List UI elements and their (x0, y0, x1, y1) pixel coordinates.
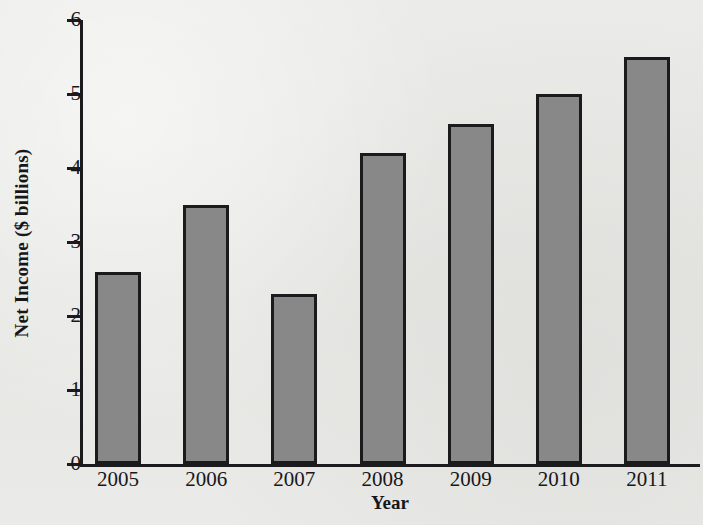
y-axis-tick-label: 0 (39, 453, 81, 474)
bar-2007 (271, 294, 317, 464)
y-axis-tick-label: 4 (39, 157, 81, 178)
x-axis-tick-label-2008: 2008 (343, 468, 423, 491)
bar-2010 (536, 94, 582, 464)
x-axis-tick-label-2009: 2009 (431, 468, 511, 491)
bar-2008 (360, 153, 406, 464)
bar-2006 (183, 205, 229, 464)
x-axis-tick-label-2007: 2007 (254, 468, 334, 491)
y-axis-ticks: 0123456 (0, 0, 81, 525)
x-axis-tick-label-2005: 2005 (78, 468, 158, 491)
x-axis-tick-label-2010: 2010 (519, 468, 599, 491)
y-axis-tick-label: 1 (39, 379, 81, 400)
x-axis-tick-label-2006: 2006 (166, 468, 246, 491)
y-axis-tick-label: 6 (39, 9, 81, 30)
bar-chart-figure: Net Income ($ billions) 0123456 20052006… (0, 0, 703, 525)
x-axis-title: Year (80, 492, 700, 514)
y-axis-tick-label: 2 (39, 305, 81, 326)
plot-area (83, 20, 700, 464)
bar-2011 (624, 57, 670, 464)
y-axis-tick-label: 3 (39, 231, 81, 252)
bar-2009 (448, 124, 494, 464)
y-axis-tick-label: 5 (39, 83, 81, 104)
bar-2005 (95, 272, 141, 464)
x-axis-tick-label-2011: 2011 (607, 468, 687, 491)
